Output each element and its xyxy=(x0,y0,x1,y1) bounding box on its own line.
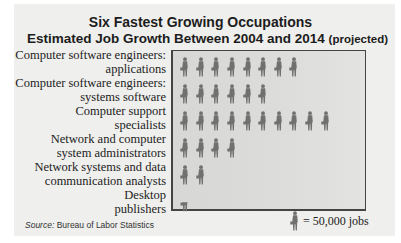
worker-icon xyxy=(177,165,193,185)
worker-icon xyxy=(208,138,224,158)
worker-icon xyxy=(239,84,255,104)
label-line: communication analysts xyxy=(34,174,166,188)
label-line: Network systems and data xyxy=(34,160,166,174)
label-line: Desktop xyxy=(115,188,166,202)
worker-icon xyxy=(239,57,255,77)
chart-title: Six Fastest Growing Occupations xyxy=(0,14,401,30)
worker-icon xyxy=(271,111,287,131)
pictograph-row xyxy=(177,54,302,80)
worker-icon xyxy=(255,57,271,77)
legend-text: = 50,000 jobs xyxy=(303,214,369,229)
worker-icon xyxy=(193,138,209,158)
subtitle-text: Estimated Job Growth Between 2004 and 20… xyxy=(27,31,325,46)
worker-icon xyxy=(271,57,287,77)
worker-icon xyxy=(177,111,193,131)
partial-worker-icon xyxy=(177,192,193,212)
label-line: Computer software engineers: xyxy=(15,76,166,90)
legend: = 50,000 jobs xyxy=(290,211,369,231)
worker-icon xyxy=(224,138,240,158)
worker-icon xyxy=(224,111,240,131)
worker-icon xyxy=(177,57,193,77)
category-label: Computer software engineers:applications xyxy=(15,48,166,76)
category-label: Network and computersystem administrator… xyxy=(51,132,166,160)
worker-icon xyxy=(193,57,209,77)
worker-icon xyxy=(302,111,318,131)
label-line: Network and computer xyxy=(51,132,166,146)
worker-icon xyxy=(193,111,209,131)
pictograph-row xyxy=(177,189,193,215)
source-text: Bureau of Labor Statistics xyxy=(54,220,154,230)
worker-icon xyxy=(255,84,271,104)
subtitle-note: (projected) xyxy=(329,33,388,45)
worker-icon xyxy=(317,111,333,131)
worker-icon xyxy=(208,57,224,77)
label-line: Computer software engineers: xyxy=(15,48,166,62)
worker-icon xyxy=(208,111,224,131)
worker-icon xyxy=(255,111,271,131)
category-label: Computer software engineers:systems soft… xyxy=(15,76,166,104)
pictograph-row xyxy=(177,81,271,107)
category-label: Desktoppublishers xyxy=(115,188,166,216)
label-line: Computer support xyxy=(75,104,166,118)
label-line: specialists xyxy=(75,118,166,132)
chart-subtitle: Estimated Job Growth Between 2004 and 20… xyxy=(14,31,401,46)
worker-icon xyxy=(193,165,209,185)
pictograph-row xyxy=(177,108,333,134)
worker-icon xyxy=(224,57,240,77)
worker-icon xyxy=(286,57,302,77)
worker-icon xyxy=(193,84,209,104)
worker-icon xyxy=(177,138,193,158)
pictograph-row xyxy=(177,135,239,161)
pictograph-row xyxy=(177,162,208,188)
category-label: Computer supportspecialists xyxy=(75,104,166,132)
worker-icon xyxy=(208,84,224,104)
worker-icon xyxy=(239,111,255,131)
label-line: publishers xyxy=(115,202,166,216)
worker-icon xyxy=(177,84,193,104)
category-label: Network systems and datacommunication an… xyxy=(34,160,166,188)
label-line: systems software xyxy=(15,90,166,104)
label-line: applications xyxy=(15,62,166,76)
source-note: Source: Bureau of Labor Statistics xyxy=(25,220,154,230)
source-label: Source: xyxy=(25,220,54,230)
worker-icon xyxy=(286,111,302,131)
worker-icon xyxy=(290,211,299,231)
worker-icon xyxy=(224,84,240,104)
label-line: system administrators xyxy=(51,146,166,160)
pictograph-area xyxy=(171,50,366,211)
